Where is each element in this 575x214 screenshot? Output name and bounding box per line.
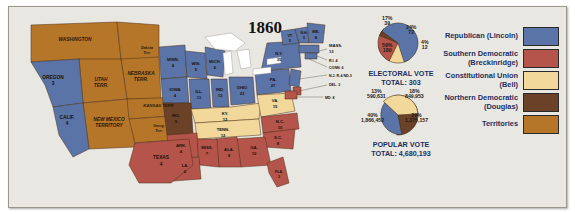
map-svg: 1860 WASHINGTON OREGON 3 CALIF. 4 UTAH T… bbox=[9, 7, 369, 205]
label-vermont: VT. bbox=[287, 34, 292, 38]
legend-swatch-territories bbox=[523, 115, 559, 134]
state-new-jersey bbox=[289, 69, 301, 87]
label-texas: TEXAS bbox=[153, 155, 170, 160]
label-california: CALIF. bbox=[60, 115, 75, 120]
label-new-hampshire: N.H. bbox=[300, 31, 307, 35]
label-maine: ME. bbox=[312, 29, 319, 34]
label-new-york: N.Y. bbox=[275, 51, 283, 56]
label-mississippi: MISS. bbox=[201, 145, 212, 150]
label-kentucky: KY. bbox=[222, 111, 229, 116]
popular-lincoln-label: 40%1,866,452 bbox=[361, 113, 384, 124]
label-dakota: Dakota bbox=[141, 46, 153, 50]
label-oregon-votes: 3 bbox=[52, 81, 55, 86]
state-washington bbox=[31, 22, 121, 65]
label-wisconsin: WIS. bbox=[191, 61, 200, 66]
label-north-carolina-votes: 10 bbox=[278, 125, 283, 130]
popular-vote-title: POPULAR VOTE bbox=[373, 140, 430, 149]
legend-item-northern-democratic: Northern Democratic(Douglas) bbox=[427, 93, 559, 112]
label-delaware: DEL. 3 bbox=[329, 83, 340, 87]
label-missouri: MO. bbox=[172, 113, 180, 118]
label-rhode-island: R.I. 4 bbox=[329, 59, 338, 63]
state-maryland bbox=[285, 91, 297, 99]
legend-swatch-constitutional-union bbox=[523, 71, 559, 90]
electoral-bell-label: 17%39 bbox=[382, 16, 392, 27]
map-title: 1860 bbox=[248, 18, 282, 37]
label-georgia: GA. bbox=[250, 145, 257, 150]
label-ohio: OHIO bbox=[237, 85, 248, 90]
state-new-york bbox=[261, 41, 301, 71]
electoral-vote-title: ELECTORAL VOTE bbox=[368, 69, 433, 78]
legend-label-northern-democratic: Northern Democratic(Douglas) bbox=[444, 94, 523, 111]
label-new-york-votes: 35 bbox=[277, 57, 282, 62]
label-michigan: MICH. bbox=[209, 59, 221, 64]
label-alabama: ALA. bbox=[224, 147, 234, 152]
label-ohio-votes: 23 bbox=[240, 91, 245, 96]
label-new-mexico-territory: TERRITORY bbox=[95, 123, 123, 128]
label-kansas-terr: KANSAS TERR. bbox=[143, 103, 174, 108]
legend-item-southern-democratic: Southern Democratic(Breckinridge) bbox=[427, 49, 559, 68]
label-new-mexico: NEW MEXICO bbox=[93, 117, 125, 122]
electoral-breckinridge-label: 24%72 bbox=[406, 25, 416, 36]
label-minnesota: MINN. bbox=[167, 57, 179, 62]
election-map: 1860 WASHINGTON OREGON 3 CALIF. 4 UTAH T… bbox=[9, 7, 369, 205]
legend-label-republican: Republican (Lincoln) bbox=[445, 32, 523, 41]
label-vermont-votes: 5 bbox=[289, 39, 291, 43]
legend: Republican (Lincoln) Southern Democratic… bbox=[427, 27, 559, 137]
legend-item-republican: Republican (Lincoln) bbox=[427, 27, 559, 46]
label-oregon: OREGON bbox=[42, 75, 64, 80]
label-virginia-votes: 15 bbox=[273, 104, 278, 109]
label-massachusetts: MASS. bbox=[329, 43, 342, 48]
label-iowa: IOWA bbox=[169, 87, 180, 92]
label-pennsylvania-votes: 27 bbox=[271, 83, 276, 88]
label-nebraska: NEBRASKA bbox=[127, 71, 155, 76]
label-unorg-terr: Terr. bbox=[155, 129, 163, 133]
label-kentucky-votes: 12 bbox=[223, 117, 228, 122]
state-illinois bbox=[189, 79, 211, 109]
label-texas-votes: 4 bbox=[160, 162, 163, 167]
label-dakota-terr: Terr. bbox=[143, 51, 151, 55]
popular-douglas-label: 29%1,375,157 bbox=[405, 113, 428, 124]
label-north-carolina: N.C. bbox=[276, 119, 284, 124]
state-minnesota bbox=[159, 45, 187, 79]
popular-bell-label: 18%849,953 bbox=[405, 89, 424, 100]
popular-vote-total: TOTAL: 4,680,193 bbox=[371, 149, 431, 158]
label-pennsylvania: PA. bbox=[270, 77, 277, 82]
label-california-votes: 4 bbox=[66, 121, 69, 126]
legend-item-territories: Territories bbox=[427, 115, 559, 134]
electoral-lincoln-label: 59%180 bbox=[382, 43, 392, 54]
legend-swatch-northern-democratic bbox=[523, 93, 559, 112]
label-south-carolina: S.C. bbox=[274, 135, 282, 140]
label-new-hampshire-votes: 5 bbox=[303, 36, 305, 40]
label-illinois-votes: 11 bbox=[197, 95, 202, 100]
legend-label-southern-democratic: Southern Democratic(Breckinridge) bbox=[443, 50, 523, 67]
lake-michigan bbox=[223, 51, 233, 75]
legend-label-territories: Territories bbox=[482, 120, 523, 129]
label-louisiana: LA. bbox=[182, 163, 189, 168]
legend-swatch-southern-democratic bbox=[523, 49, 559, 68]
label-tennessee-votes: 12 bbox=[221, 133, 226, 138]
label-unorg: Unorg. bbox=[153, 124, 165, 128]
legend-item-constitutional-union: Constitutional Union(Bell) bbox=[427, 71, 559, 90]
map-figure-frame: 1860 WASHINGTON OREGON 3 CALIF. 4 UTAH T… bbox=[8, 6, 567, 208]
label-georgia-votes: 10 bbox=[252, 151, 257, 156]
label-indiana-votes: 13 bbox=[218, 93, 223, 98]
legend-swatch-republican bbox=[523, 27, 559, 46]
label-nebraska-terr: TERR. bbox=[134, 77, 148, 82]
label-virginia: VA. bbox=[272, 98, 279, 103]
label-florida: FLA. bbox=[275, 170, 283, 174]
popular-breckinridge-label: 13%590,631 bbox=[367, 89, 386, 100]
label-washington: WASHINGTON bbox=[59, 37, 92, 42]
label-utah-terr: TERR. bbox=[94, 83, 108, 88]
label-florida-votes: 3 bbox=[278, 175, 280, 179]
popular-vote-caption: POPULAR VOTE TOTAL: 4,680,193 bbox=[341, 140, 461, 158]
label-maryland: MD. 8 bbox=[325, 96, 335, 100]
label-illinois: ILL. bbox=[195, 89, 202, 94]
label-tennessee: TENN. bbox=[217, 127, 230, 132]
label-utah: UTAH bbox=[95, 77, 109, 82]
legend-label-constitutional-union: Constitutional Union(Bell) bbox=[445, 72, 523, 89]
electoral-vote-total: TOTAL: 303 bbox=[381, 78, 421, 87]
label-indiana: IND. bbox=[216, 87, 224, 92]
label-arkansas: ARK. bbox=[176, 143, 186, 148]
label-massachusetts-votes: 13 bbox=[329, 49, 334, 54]
